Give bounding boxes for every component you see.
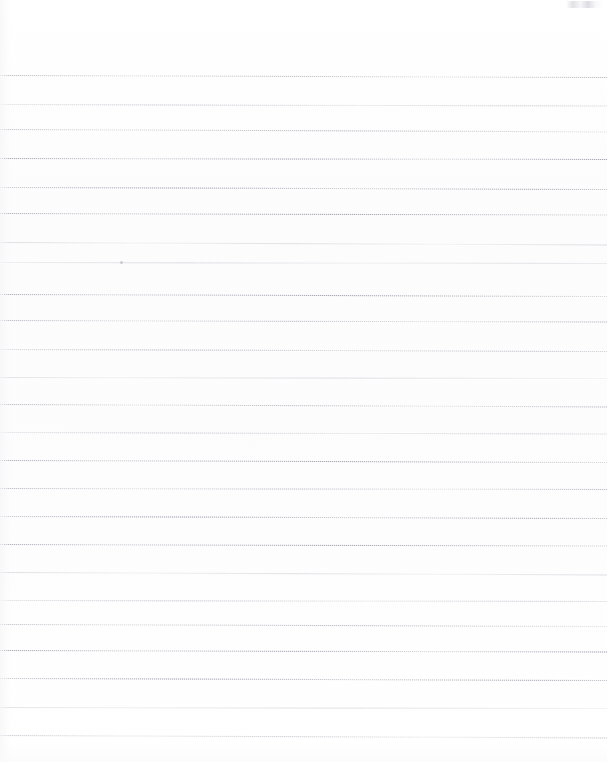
ruled-line-ghost (0, 187, 607, 190)
ruled-line-ink (0, 213, 607, 216)
ruled-line (0, 157, 607, 161)
ruled-line-ghost (0, 707, 607, 709)
dust-speck-icon (120, 261, 123, 264)
ruled-line-fade-mask (0, 487, 607, 491)
bottom-edge-shading (0, 742, 607, 762)
ruled-line-fade-mask (0, 212, 607, 217)
ruled-line (0, 74, 607, 79)
ruled-line (0, 677, 607, 682)
ruled-line-ink (0, 707, 607, 709)
ruled-line-ink (0, 572, 607, 576)
ruled-line-ghost (0, 735, 607, 739)
ruled-line-fade-mask (0, 319, 607, 324)
ruled-line (0, 431, 607, 436)
ruled-line-ghost (0, 377, 607, 379)
ruled-line-ink (0, 432, 607, 435)
ruled-line (0, 515, 607, 520)
ruled-line (0, 212, 607, 217)
ruled-line-ghost (0, 432, 607, 435)
ruled-line-fade-mask (0, 623, 607, 628)
ruled-line-ink (0, 262, 607, 264)
ruled-line (0, 623, 607, 628)
ruled-line-ink (0, 187, 607, 190)
ruled-line-fade-mask (0, 403, 607, 409)
ruled-line-ink (0, 349, 607, 352)
ruled-line-ghost (0, 460, 607, 463)
ruled-line-ghost (0, 129, 607, 133)
ruled-line-ghost (0, 213, 607, 216)
ruled-line-ghost (0, 600, 607, 602)
ruled-line-ink (0, 242, 607, 246)
ruled-line (0, 128, 607, 134)
ruled-line-ink (0, 377, 607, 379)
ruled-line (0, 186, 607, 191)
ruled-line-fade-mask (0, 677, 607, 682)
ruled-line (0, 261, 607, 265)
ruled-line-fade-mask (0, 431, 607, 436)
ruled-line-ink (0, 75, 607, 78)
ruled-line (0, 348, 607, 353)
ruled-line-ghost (0, 242, 607, 246)
ruled-line (0, 103, 607, 108)
ruled-line-ink (0, 735, 607, 739)
ruled-line-ghost (0, 294, 607, 297)
ruled-line (0, 459, 607, 464)
ruled-line-ghost (0, 104, 607, 107)
ruled-line-ink (0, 624, 607, 627)
ruled-line (0, 706, 607, 710)
scan-smudge-artifact-icon (566, 1, 604, 8)
ruled-line-ink (0, 404, 607, 408)
ruled-line-ghost (0, 650, 607, 653)
ruled-line-fade-mask (0, 515, 607, 520)
ruled-line-ghost (0, 488, 607, 490)
ruled-line-ghost (0, 516, 607, 519)
ruled-line (0, 487, 607, 491)
ruled-line-fade-mask (0, 103, 607, 108)
ruled-line-fade-mask (0, 74, 607, 79)
ruled-line-ghost (0, 320, 607, 323)
ruled-line-fade-mask (0, 571, 607, 577)
ruled-line (0, 403, 607, 409)
ruled-line-fade-mask (0, 241, 607, 247)
ruled-line-ghost (0, 544, 607, 547)
ruled-line-fade-mask (0, 459, 607, 464)
ruled-line-fade-mask (0, 706, 607, 710)
ruled-line-fade-mask (0, 599, 607, 603)
ruled-line-fade-mask (0, 376, 607, 380)
ruled-line-fade-mask (0, 186, 607, 191)
ruled-line-ink (0, 488, 607, 490)
ruled-line (0, 376, 607, 380)
ruled-line-fade-mask (0, 649, 607, 654)
ruled-line-fade-mask (0, 348, 607, 353)
ruled-line (0, 599, 607, 603)
ruled-line-ink (0, 129, 607, 133)
ruled-line-ink (0, 600, 607, 602)
ruled-line-fade-mask (0, 128, 607, 134)
ruled-line-ink (0, 516, 607, 519)
ruled-line (0, 734, 607, 740)
ruled-line (0, 241, 607, 247)
ruled-line-ink (0, 320, 607, 323)
ruled-line-ghost (0, 158, 607, 160)
ruled-line (0, 571, 607, 577)
ruled-line-ghost (0, 404, 607, 408)
ruled-line (0, 543, 607, 548)
ruled-line-ink (0, 544, 607, 547)
ruled-line-ghost (0, 624, 607, 627)
ruled-line-ghost (0, 678, 607, 681)
ruled-line-ink (0, 294, 607, 297)
ruled-line-fade-mask (0, 543, 607, 548)
ruled-line-fade-mask (0, 293, 607, 298)
ruled-line-ink (0, 678, 607, 681)
ruled-line (0, 293, 607, 298)
ruled-line-ghost (0, 349, 607, 352)
ruled-line-ghost (0, 572, 607, 576)
ruled-line (0, 319, 607, 324)
paper-tint (0, 0, 607, 762)
ruled-line-fade-mask (0, 157, 607, 161)
ruled-line-fade-mask (0, 261, 607, 265)
left-edge-shading (0, 0, 10, 762)
ruled-line-ink (0, 158, 607, 160)
ruled-line-ghost (0, 75, 607, 78)
ruled-line-ink (0, 104, 607, 107)
